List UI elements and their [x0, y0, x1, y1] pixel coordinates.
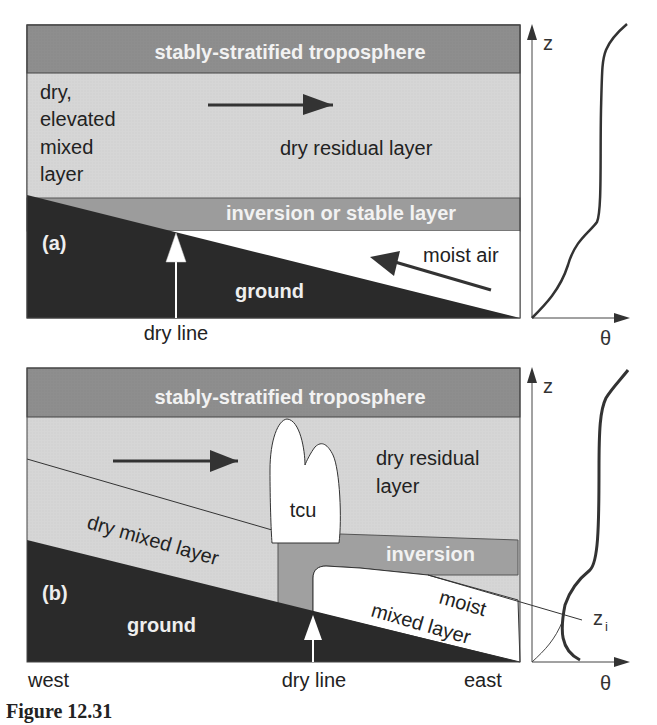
figure-caption: Figure 12.31 [6, 700, 112, 723]
label-west: west [27, 669, 70, 691]
label-residual-b-2: layer [376, 475, 420, 497]
label-dry-line-a: dry line [144, 322, 208, 344]
label-zi-subscript: i [605, 619, 608, 634]
label-elevated-3: mixed [40, 136, 93, 158]
label-inversion-b: inversion [386, 543, 475, 565]
label-ground-a: ground [235, 280, 304, 302]
label-elevated-4: layer [40, 163, 84, 185]
panel-a: stably-stratified troposphere dry, eleva… [27, 24, 630, 349]
axis-theta-a: θ [600, 327, 611, 349]
label-troposphere-a: stably-stratified troposphere [154, 41, 425, 63]
axis-z-b: z [543, 375, 553, 397]
label-troposphere-b: stably-stratified troposphere [154, 386, 425, 408]
panel-tag-b: (b) [42, 582, 68, 604]
dry-line-diagram: stably-stratified troposphere dry, eleva… [0, 0, 657, 725]
panel-b: stably-stratified troposphere dry residu… [27, 367, 630, 694]
theta-profile-b: z z i θ [527, 367, 630, 694]
label-tcu: tcu [290, 499, 317, 521]
label-elevated-1: dry, [40, 81, 72, 103]
axis-z-a: z [543, 32, 553, 54]
label-ground-b: ground [127, 614, 196, 636]
label-inversion-a: inversion or stable layer [226, 202, 456, 224]
label-zi: z [593, 607, 603, 629]
theta-profile-a: z θ [527, 24, 630, 349]
axis-theta-b: θ [600, 672, 611, 694]
label-elevated-2: elevated [40, 108, 116, 130]
panel-tag-a: (a) [42, 232, 66, 254]
label-moist-air: moist air [423, 244, 499, 266]
label-dry-line-b: dry line [282, 669, 346, 691]
label-residual-a: dry residual layer [280, 137, 433, 159]
label-residual-b-1: dry residual [376, 447, 479, 469]
label-east: east [464, 669, 502, 691]
